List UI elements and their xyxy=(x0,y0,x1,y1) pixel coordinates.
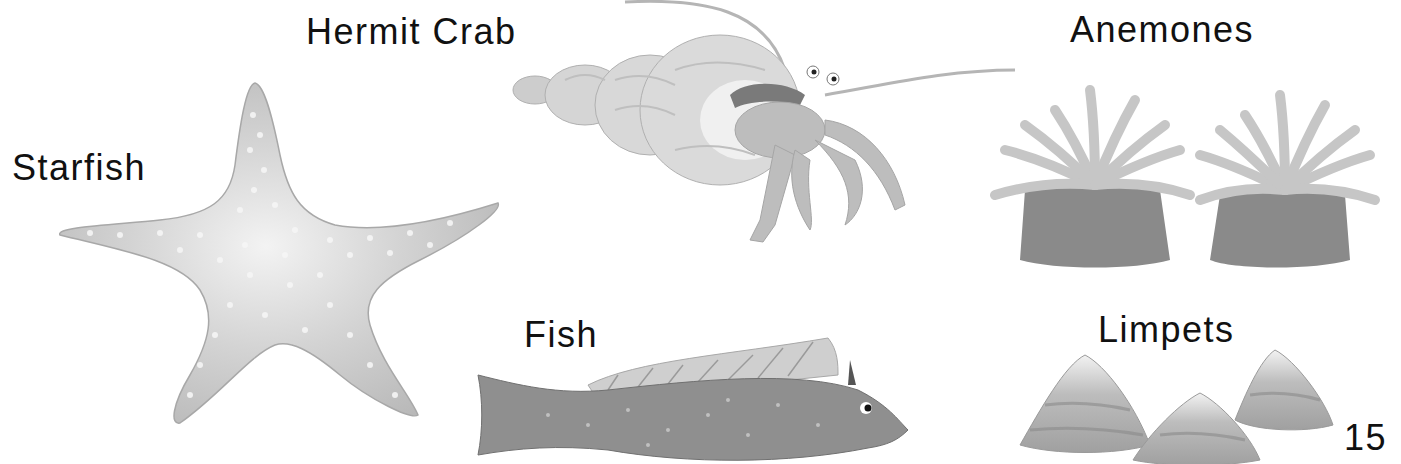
hermit-crab-illustration xyxy=(505,0,1025,260)
fish-body xyxy=(478,375,908,460)
fish-illustration xyxy=(468,330,918,464)
limpets-illustration xyxy=(1015,345,1335,464)
anemones-illustration xyxy=(985,80,1385,270)
starfish-body xyxy=(60,83,499,423)
limpet-1 xyxy=(1020,355,1150,453)
label-limpets: Limpets xyxy=(1098,312,1235,348)
fish-head-spine xyxy=(848,360,856,385)
page-number: 15 xyxy=(1344,420,1387,456)
starfish-illustration xyxy=(50,75,510,435)
limpet-3 xyxy=(1235,350,1333,430)
anemone-left xyxy=(995,90,1190,268)
crab-eyes xyxy=(807,66,839,85)
anemone-right xyxy=(1200,95,1375,268)
limpet-2 xyxy=(1133,393,1260,464)
label-anemones: Anemones xyxy=(1070,12,1254,48)
label-hermit-crab: Hermit Crab xyxy=(306,14,517,50)
